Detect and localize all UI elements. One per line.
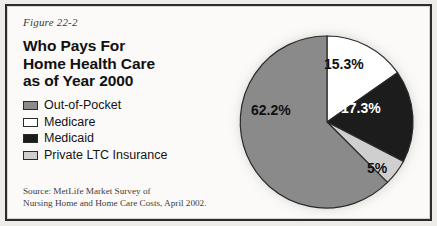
legend-item-medicaid: Medicaid [23,132,228,146]
figure-source-line-2: Nursing Home and Home Care Costs, April … [23,198,238,210]
figure-title-line-2: Home Health Care [23,55,228,73]
legend-item-out-of-pocket: Out-of-Pocket [23,99,228,113]
figure-title-line-3: as of Year 2000 [23,72,228,90]
legend-swatch-icon [23,151,38,160]
figure-title-line-1: Who Pays For [23,37,228,55]
legend-swatch-icon [23,134,38,143]
pie-label-medicaid: 17.3% [341,100,381,116]
pie-label-private-ltc-insurance: 5% [367,160,387,176]
pie-chart: 62.2% 15.3% 17.3% 5% [229,24,429,219]
legend-swatch-icon [23,101,38,110]
legend-label-out-of-pocket: Out-of-Pocket [44,99,121,112]
legend-swatch-icon [23,118,38,127]
pie-label-medicare: 15.3% [324,56,364,72]
legend-item-private-ltc-insurance: Private LTC Insurance [23,148,228,162]
figure-container: Figure 22-2 Who Pays For Home Health Car… [0,0,437,226]
pie-label-out-of-pocket: 62.2% [251,102,291,118]
legend-label-private-ltc-insurance: Private LTC Insurance [44,149,167,162]
figure-title: Who Pays For Home Health Care as of Year… [23,37,228,90]
figure-frame: Figure 22-2 Who Pays For Home Health Car… [5,4,432,221]
legend-label-medicare: Medicare [44,116,95,129]
figure-number-label: Figure 22-2 [23,16,228,28]
figure-text-column: Figure 22-2 Who Pays For Home Health Car… [23,16,228,165]
figure-source-note: Source: MetLife Market Survey of Nursing… [23,186,238,209]
figure-source-line-1: Source: MetLife Market Survey of [23,186,238,198]
legend-label-medicaid: Medicaid [44,132,94,145]
legend-item-medicare: Medicare [23,115,228,129]
chart-legend: Out-of-Pocket Medicare Medicaid Private … [23,99,228,163]
